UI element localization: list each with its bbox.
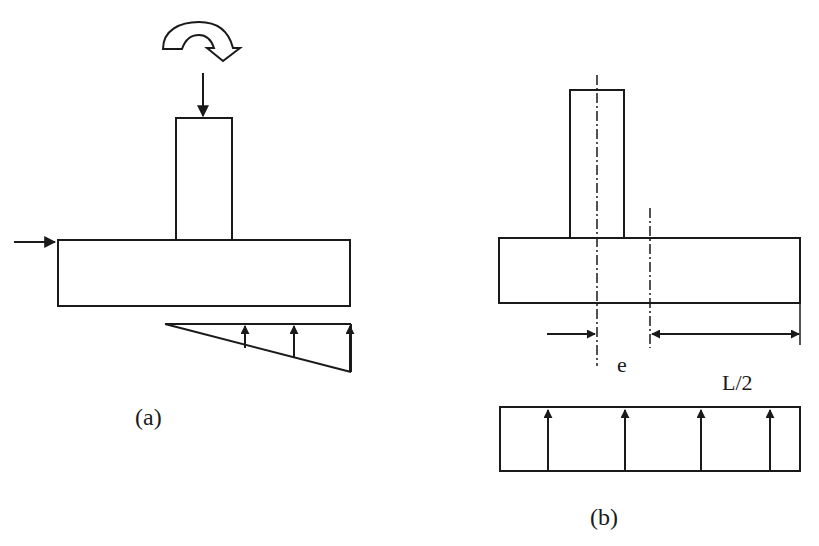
uniform-pressure-diagram xyxy=(500,407,800,471)
moment-icon xyxy=(163,22,240,61)
foundation-diagram xyxy=(0,0,819,546)
triangular-pressure-diagram xyxy=(165,324,351,372)
half-length-label: L/2 xyxy=(722,370,753,396)
caption-a: (a) xyxy=(135,404,162,431)
column-a xyxy=(176,118,232,240)
panel-b xyxy=(499,75,800,471)
panel-a xyxy=(14,22,351,372)
eccentricity-label: e xyxy=(617,352,627,378)
caption-b: (b) xyxy=(590,504,618,531)
footing-a xyxy=(58,240,350,306)
